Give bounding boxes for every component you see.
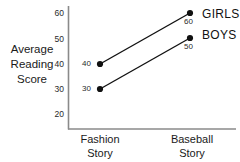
x-tick-baseball-story: Baseball Story: [152, 132, 232, 160]
point-label-boys-fashion: 30: [82, 85, 91, 93]
x-tick-baseball-line-1: Baseball: [152, 132, 232, 146]
x-tick-fashion-line-1: Fashion: [60, 132, 140, 146]
series-label-girls: GIRLS: [202, 8, 240, 20]
x-tick-baseball-line-2: Story: [152, 146, 232, 160]
reading-score-line-chart: Average Reading Score 60 50 40 30 20 40 …: [0, 0, 240, 162]
series-label-boys: BOYS: [202, 29, 237, 41]
girls-point-fashion: [97, 61, 103, 67]
point-label-girls-baseball: 60: [184, 18, 193, 26]
boys-series-line: [100, 38, 190, 89]
boys-point-fashion: [97, 86, 103, 92]
boys-point-baseball: [187, 35, 193, 41]
point-label-boys-baseball: 50: [184, 43, 193, 51]
x-tick-fashion-line-2: Story: [60, 146, 140, 160]
x-tick-fashion-story: Fashion Story: [60, 132, 140, 160]
girls-series-line: [100, 13, 190, 64]
girls-point-baseball: [187, 10, 193, 16]
point-label-girls-fashion: 40: [82, 60, 91, 68]
